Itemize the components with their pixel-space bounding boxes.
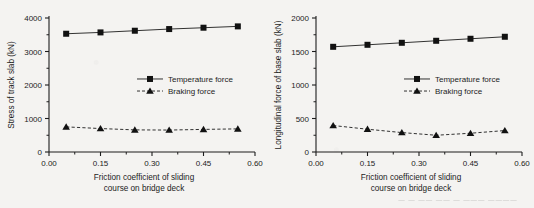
series-line-1 xyxy=(66,26,238,33)
x-tick-label: 0.30 xyxy=(144,159,160,168)
legend-marker-square xyxy=(414,76,420,82)
x-tick-label: 0.45 xyxy=(463,159,479,168)
x-axis-title-line2: course on bridge deck xyxy=(371,184,452,193)
data-point-square xyxy=(132,28,138,34)
y-tick-label: 3000 xyxy=(24,48,42,57)
x-axis-title-line1: Friction coefficient of sliding xyxy=(94,173,195,182)
y-tick-label: 1500 xyxy=(291,48,309,57)
x-tick-label: 0.30 xyxy=(411,159,427,168)
x-tick-label: 0.45 xyxy=(196,159,212,168)
data-point-triangle xyxy=(501,127,509,133)
data-point-square xyxy=(235,23,241,29)
stress-of-track-slab-chart: 010002000300040000.000.150.300.450.60Tem… xyxy=(0,0,267,208)
legend-entry-2: Braking force xyxy=(137,87,216,96)
data-point-square xyxy=(502,34,508,40)
data-point-triangle xyxy=(62,123,70,129)
legend-label-2: Braking force xyxy=(435,87,483,96)
data-point-square xyxy=(365,42,371,48)
legend-entry-1: Temperature force xyxy=(404,75,500,84)
legend-entry-2: Braking force xyxy=(404,87,483,96)
data-point-triangle xyxy=(432,132,440,138)
legend-label-1: Temperature force xyxy=(168,75,233,84)
data-point-square xyxy=(399,40,405,46)
series-line-1 xyxy=(333,37,505,47)
x-axis-title-line1: Friction coefficient of sliding xyxy=(361,173,462,182)
data-point-square xyxy=(433,38,439,44)
y-tick-label: 2000 xyxy=(291,14,309,23)
x-tick-label: 0.15 xyxy=(360,159,376,168)
data-point-square xyxy=(201,25,207,31)
y-axis-title: Longitudinal force of base slab (kN) xyxy=(274,20,283,149)
data-point-square xyxy=(63,31,69,37)
chart-panel-left: 010002000300040000.000.150.300.450.60Tem… xyxy=(0,0,267,208)
series-line-2 xyxy=(66,127,238,130)
series-line-2 xyxy=(333,126,505,136)
longitudinal-force-of-base-slab-chart: 05001000150020000.000.150.300.450.60Temp… xyxy=(267,0,534,208)
two-panel-figure: 010002000300040000.000.150.300.450.60Tem… xyxy=(0,0,534,208)
y-tick-label: 2000 xyxy=(24,81,42,90)
data-point-square xyxy=(330,44,336,50)
data-point-triangle xyxy=(200,126,208,132)
legend-label-2: Braking force xyxy=(168,87,216,96)
data-point-triangle xyxy=(97,125,105,131)
x-tick-label: 0.00 xyxy=(308,159,324,168)
data-point-square xyxy=(98,29,104,35)
x-tick-label: 0.00 xyxy=(41,159,57,168)
chart-panel-right: 05001000150020000.000.150.300.450.60Temp… xyxy=(267,0,534,208)
x-tick-label: 0.15 xyxy=(93,159,109,168)
y-tick-label: 0 xyxy=(305,148,310,157)
y-tick-label: 1000 xyxy=(24,115,42,124)
scan-bleed-artifact: — — —— —— — ——— ———— xyxy=(398,197,534,206)
y-tick-label: 1000 xyxy=(291,81,309,90)
y-axis-title: Stress of track slab (kN) xyxy=(7,41,16,129)
data-point-square xyxy=(468,36,474,42)
data-point-square xyxy=(166,26,172,32)
y-tick-label: 4000 xyxy=(24,14,42,23)
x-tick-label: 0.60 xyxy=(514,159,530,168)
y-tick-label: 500 xyxy=(296,115,310,124)
data-point-triangle xyxy=(364,126,372,132)
x-axis-title-line2: course on bridge deck xyxy=(104,184,185,193)
x-tick-label: 0.60 xyxy=(247,159,263,168)
y-tick-label: 0 xyxy=(38,148,43,157)
legend-label-1: Temperature force xyxy=(435,75,500,84)
legend-entry-1: Temperature force xyxy=(137,75,233,84)
data-point-triangle xyxy=(329,122,337,128)
legend-marker-square xyxy=(147,76,153,82)
